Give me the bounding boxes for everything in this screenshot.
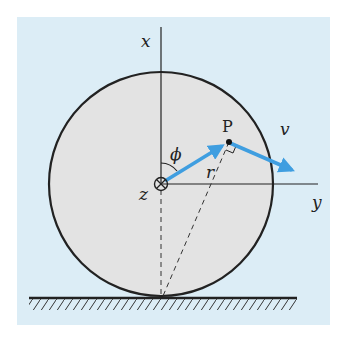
rolling-disk-diagram: x y z ϕ P r v — [0, 0, 341, 341]
ground-hatching — [29, 299, 297, 310]
velocity-label: v — [280, 119, 290, 139]
z-axis-label: z — [138, 184, 149, 204]
x-axis-label: x — [141, 31, 151, 51]
y-axis-label: y — [311, 192, 322, 212]
angle-label: ϕ — [170, 144, 182, 164]
point-p — [226, 139, 232, 145]
radius-label: r — [206, 162, 215, 182]
point-label: P — [222, 117, 233, 136]
